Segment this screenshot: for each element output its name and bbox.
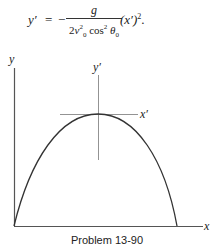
x-prime-axis-label: x′ — [140, 107, 148, 122]
y-axis-label: y — [9, 52, 14, 67]
y-prime-axis-label: y′ — [93, 60, 101, 75]
x-axis-label: x — [204, 219, 209, 234]
trajectory-curve — [14, 114, 177, 226]
figure-caption: Problem 13-90 — [0, 234, 214, 244]
trajectory-diagram — [0, 0, 214, 244]
